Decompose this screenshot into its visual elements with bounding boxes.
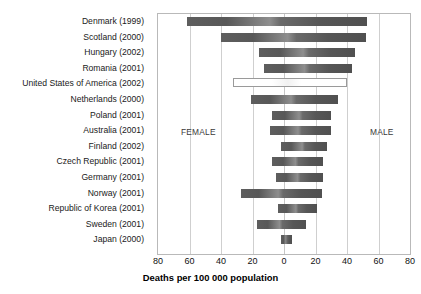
bar-row: [158, 186, 410, 202]
bar-highlighted: [233, 78, 347, 87]
bar-row: [158, 217, 410, 233]
bar: [278, 204, 317, 213]
category-label: Scotland (2000): [0, 30, 150, 46]
category-label: Romania (2001): [0, 61, 150, 77]
x-tick-label: 60: [373, 256, 383, 266]
x-tick-label: 80: [405, 256, 415, 266]
bar: [241, 189, 321, 198]
category-label: Denmark (1999): [0, 14, 150, 30]
bar-row: [158, 92, 410, 108]
category-label: Czech Republic (2001): [0, 154, 150, 170]
bar-row: [158, 14, 410, 30]
x-tick-label: 20: [247, 256, 257, 266]
population-pyramid-chart: Denmark (1999)Scotland (2000)Hungary (20…: [0, 0, 421, 294]
x-tick-label: 20: [310, 256, 320, 266]
bar-row: [158, 30, 410, 46]
category-labels-column: Denmark (1999)Scotland (2000)Hungary (20…: [0, 14, 150, 248]
x-tick-label: 40: [216, 256, 226, 266]
x-tick-label: 60: [184, 256, 194, 266]
bar: [276, 173, 323, 182]
category-label: Finland (2002): [0, 139, 150, 155]
category-label: Republic of Korea (2001): [0, 201, 150, 217]
bar: [281, 235, 292, 244]
x-tick-label: 40: [342, 256, 352, 266]
bar-row: [158, 76, 410, 92]
bar: [251, 95, 338, 104]
bar: [272, 111, 331, 120]
category-label: Norway (2001): [0, 186, 150, 202]
bar: [221, 33, 366, 42]
bar-row: [158, 61, 410, 77]
bar: [281, 142, 327, 151]
x-axis-title: Deaths per 100 000 population: [0, 272, 421, 283]
category-label: United States of America (2002): [0, 76, 150, 92]
x-tick-label: 80: [153, 256, 163, 266]
x-axis-ticks: 80604020020406080: [157, 256, 411, 270]
bar: [259, 48, 355, 57]
x-tick-label: 0: [281, 256, 286, 266]
bar-row: [158, 108, 410, 124]
category-label: Netherlands (2000): [0, 92, 150, 108]
category-label: Japan (2000): [0, 232, 150, 248]
bar-row: [158, 170, 410, 186]
category-label: Hungary (2002): [0, 45, 150, 61]
bar: [270, 126, 331, 135]
bar: [257, 220, 306, 229]
female-side-label: FEMALE: [181, 127, 216, 137]
bar-row: [158, 154, 410, 170]
category-label: Germany (2001): [0, 170, 150, 186]
bar-row: [158, 45, 410, 61]
bar: [187, 17, 367, 26]
bar: [264, 64, 351, 73]
bar-row: [158, 201, 410, 217]
category-label: Australia (2001): [0, 123, 150, 139]
plot-area: FEMALE MALE: [157, 13, 411, 255]
male-side-label: MALE: [370, 127, 394, 137]
bar-row: [158, 139, 410, 155]
category-label: Poland (2001): [0, 108, 150, 124]
bar-row: [158, 232, 410, 248]
category-label: Sweden (2001): [0, 217, 150, 233]
bar: [272, 157, 323, 166]
